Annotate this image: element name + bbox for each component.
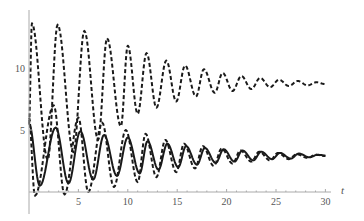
series-layer <box>29 23 325 195</box>
line-chart: 51015202530510 t <box>0 0 364 221</box>
x-tick-label: 20 <box>222 196 232 207</box>
x-tick-label: 10 <box>123 196 133 207</box>
y-tick-label: 5 <box>20 125 25 136</box>
x-tick-label: 25 <box>271 196 281 207</box>
series-solid <box>29 124 325 186</box>
x-tick-label: 30 <box>320 196 330 207</box>
x-axis-title: t <box>341 184 345 196</box>
x-tick-label: 15 <box>172 196 182 207</box>
y-tick-label: 10 <box>15 63 25 74</box>
series-upper-dashed <box>29 23 325 159</box>
x-tick-label: 5 <box>76 196 81 207</box>
